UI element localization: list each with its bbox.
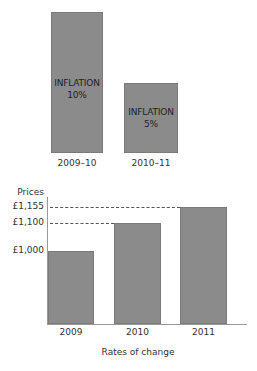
- y-tick-label: £1,155: [0, 201, 44, 211]
- reference-line-1155: [50, 207, 180, 208]
- y-axis-title: Prices: [0, 187, 44, 197]
- x-tick-label: 2009: [48, 327, 94, 337]
- x-tick-label: 2010: [114, 327, 161, 337]
- x-tick-label: 2011: [180, 327, 227, 337]
- bar-label: INFLATION 5%: [125, 106, 177, 130]
- bar-price-2011: [180, 207, 227, 324]
- y-tick-label: £1,100: [0, 217, 44, 227]
- bar-label-value: 5%: [125, 118, 177, 130]
- y-tick-label: £1,000: [0, 245, 44, 255]
- bar-inflation-2009-10: INFLATION 10%: [51, 12, 103, 153]
- bar-label-line1: INFLATION: [125, 106, 177, 118]
- x-tick-label: 2009–10: [45, 158, 109, 168]
- reference-line-1100: [50, 223, 114, 224]
- bar-label-line1: INFLATION: [52, 77, 102, 89]
- x-axis: [47, 324, 247, 325]
- bar-inflation-2010-11: INFLATION 5%: [124, 83, 178, 153]
- bar-label-value: 10%: [52, 89, 102, 101]
- x-tick-label: 2010–11: [119, 158, 183, 168]
- bar-label: INFLATION 10%: [52, 77, 102, 101]
- x-axis-title: Rates of change: [48, 347, 228, 357]
- bar-price-2009: [48, 251, 94, 324]
- bar-price-2010: [114, 223, 161, 324]
